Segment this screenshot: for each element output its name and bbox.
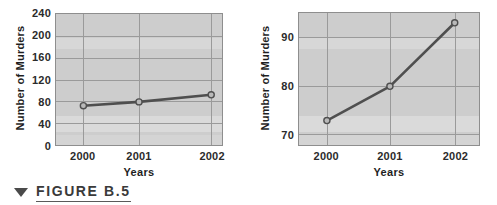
chart-left: Number of Murders 240 200 160 120 80 40 … bbox=[0, 0, 250, 180]
y-tick-label: 240 bbox=[32, 7, 51, 19]
y-tick-label: 160 bbox=[32, 51, 51, 63]
right-chart-y-ticks: 90 80 70 bbox=[268, 12, 294, 146]
x-tick-label: 2002 bbox=[199, 150, 224, 162]
left-chart-x-axis-title: Years bbox=[55, 166, 223, 178]
figure-b5: Number of Murders 240 200 160 120 80 40 … bbox=[0, 0, 497, 205]
chart-right: Number of Murders 90 80 70 2000 2001 2 bbox=[252, 0, 497, 180]
right-chart-x-axis-title: Years bbox=[298, 166, 480, 178]
y-tick-label: 0 bbox=[45, 140, 51, 152]
x-tick-label: 2000 bbox=[314, 150, 339, 162]
figure-caption: FIGURE B.5 bbox=[14, 183, 131, 202]
series-line bbox=[83, 95, 211, 106]
y-tick-label: 80 bbox=[38, 96, 51, 108]
series-marker bbox=[452, 20, 458, 26]
left-chart-series bbox=[56, 14, 222, 145]
y-tick-label: 80 bbox=[281, 80, 294, 92]
y-tick-label: 40 bbox=[38, 118, 51, 130]
figure-caption-label: FIGURE B.5 bbox=[36, 183, 131, 202]
left-chart-x-ticks: 2000 2001 2002 bbox=[55, 150, 223, 166]
y-tick-label: 70 bbox=[281, 129, 294, 141]
y-tick-label: 120 bbox=[32, 74, 51, 86]
x-tick-label: 2000 bbox=[70, 150, 95, 162]
left-chart-y-ticks: 240 200 160 120 80 40 0 bbox=[24, 13, 51, 146]
right-chart-plot-area bbox=[298, 12, 480, 146]
down-triangle-icon bbox=[14, 188, 28, 197]
series-line bbox=[327, 23, 455, 121]
x-tick-label: 2002 bbox=[443, 150, 468, 162]
x-tick-label: 2001 bbox=[377, 150, 402, 162]
right-chart-x-ticks: 2000 2001 2002 bbox=[298, 150, 480, 166]
series-marker bbox=[136, 99, 142, 105]
x-tick-label: 2001 bbox=[126, 150, 151, 162]
series-marker bbox=[387, 83, 393, 89]
left-chart-plot-area bbox=[55, 13, 223, 146]
series-marker bbox=[324, 118, 330, 124]
series-marker bbox=[80, 103, 86, 109]
y-tick-label: 90 bbox=[281, 31, 294, 43]
series-markers bbox=[324, 20, 458, 124]
right-chart-series bbox=[299, 13, 479, 145]
y-tick-label: 200 bbox=[32, 29, 51, 41]
series-marker bbox=[208, 92, 214, 98]
